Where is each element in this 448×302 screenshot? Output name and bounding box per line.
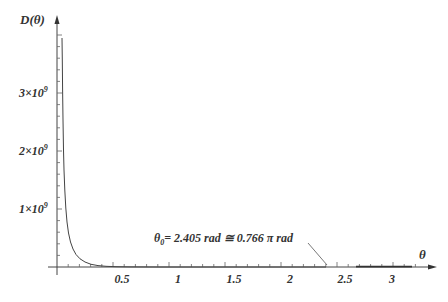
x-tick-label-2: 2: [286, 272, 293, 286]
x-tick-label-1.5: 1.5: [227, 272, 242, 286]
y-tick-label-3e9: 3×109: [18, 85, 48, 100]
x-tick-label-3: 3: [388, 272, 395, 286]
y-tick-label-1e9: 1×109: [19, 201, 48, 216]
y-axis: [55, 15, 63, 275]
annotation-label: θ0= 2.405 rad ≅ 0.766 π rad: [154, 231, 294, 247]
y-axis-arrow-icon: [55, 15, 60, 24]
annotation-pointer: [308, 243, 327, 265]
y-axis-label: D(θ): [19, 12, 45, 27]
x-axis-label: θ: [419, 247, 426, 262]
x-tick-label-1: 1: [175, 272, 181, 286]
x-tick-label-2.5: 2.5: [337, 272, 353, 286]
chart: D(θ) θ 3×109 2×109 1×109 0.5 1 1.5 2 2.5…: [0, 0, 448, 302]
x-tick-label-0.5: 0.5: [115, 272, 130, 286]
y-tick-label-2e9: 2×109: [18, 143, 48, 158]
x-axis-arrow-icon: [428, 265, 437, 270]
